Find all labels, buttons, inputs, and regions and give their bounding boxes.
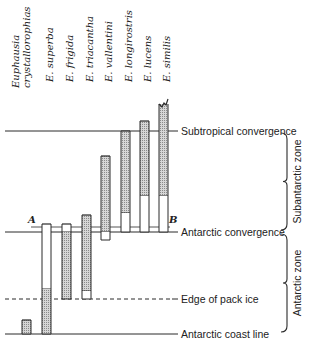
species-bar [121,131,130,232]
species-label: E. similis [161,36,172,83]
bar-segment-open [101,232,110,240]
reference-line-label: Subtropical convergence [181,125,297,137]
species-label: E. vallentini [103,21,114,83]
zone-brace [281,133,287,230]
species-label: Euphausia [10,35,21,89]
species-bar [140,121,149,232]
species-bar [22,320,31,334]
species-label: E. longirostris [123,10,134,83]
zone-label: Subantarctic zone [291,139,303,223]
species-bar [62,224,71,299]
bar-segment-open [42,224,51,289]
euphausia-distribution-diagram: Subtropical convergenceAntarctic converg… [0,0,309,345]
bar-segment-dotted [82,215,91,291]
bar-segment-dotted [101,156,110,232]
bar-segment-open [140,196,149,232]
bar-segment-open [159,196,168,232]
species-label: E. frigida [64,35,75,83]
zone-brace [281,234,287,332]
reference-line-label: Antarctic coast line [181,328,269,340]
bar-segment-dotted [22,320,31,334]
bar-segment-open [62,224,71,232]
species-bar [42,224,51,334]
bar-segment-dotted [62,232,71,299]
bar-segment-dotted [121,131,130,213]
bar-segment-open [82,291,91,299]
bar-segment-open [121,213,130,232]
marker-b: B [168,214,177,225]
species-label: E. triacantha [84,16,95,83]
reference-line-label: Edge of pack ice [181,293,259,305]
species-label: crystallorophias [21,7,32,89]
zone-label: Antarctic zone [291,250,303,317]
species-labels: EuphausiacrystallorophiasE. superbaE. fr… [10,7,172,90]
marker-a: A [27,214,36,225]
species-bar [101,156,110,240]
bar-segment-dotted [140,121,149,196]
bar-segment-dotted [159,104,168,196]
species-label: E. superba [44,27,55,83]
reference-line-label: Antarctic convergence [181,226,285,238]
species-label: E. lucens [142,36,153,83]
bar-segment-dotted [42,289,51,334]
species-bar [159,99,168,232]
species-bar [82,215,91,299]
